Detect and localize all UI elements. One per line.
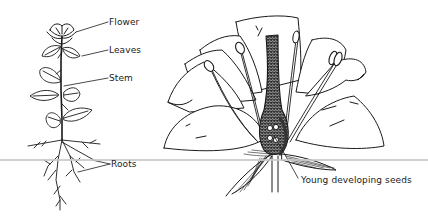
flower-stalk <box>272 156 278 192</box>
diagram-canvas: Flower Leaves Stem Roots Young developin… <box>0 0 428 220</box>
sepals <box>226 150 336 196</box>
label-flower: Flower <box>109 18 139 27</box>
flower-section-illustration <box>164 16 384 196</box>
plant-roots <box>28 140 100 210</box>
scan-artifact-line <box>0 159 428 161</box>
label-stem: Stem <box>109 74 133 83</box>
plant-diagram-svg <box>0 0 428 220</box>
label-young-developing-seeds: Young developing seeds <box>301 176 412 185</box>
label-roots: Roots <box>111 160 137 169</box>
label-leaves: Leaves <box>109 46 141 55</box>
whole-plant-illustration <box>28 22 110 210</box>
